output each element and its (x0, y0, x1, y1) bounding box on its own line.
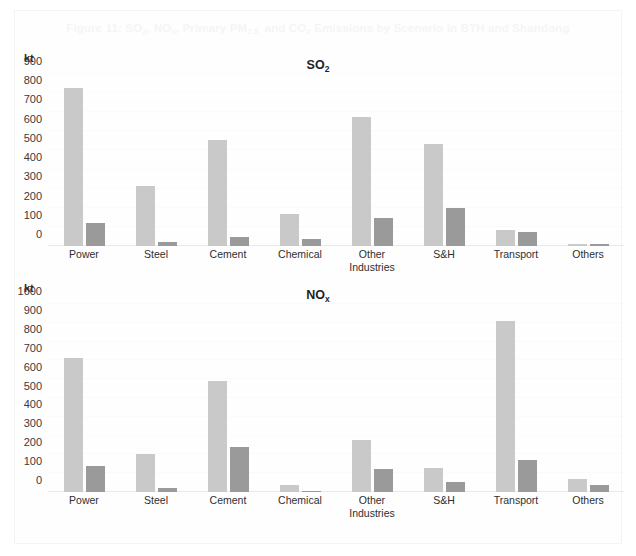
bar-groups-so2 (48, 74, 624, 246)
chart-title-so2: SO2 (0, 58, 636, 72)
bar-so2-s&h-s2[interactable] (446, 208, 465, 246)
y-tick-label: 900 (24, 55, 42, 67)
bar-so2-chemical-s2[interactable] (302, 239, 321, 246)
figure-page: Figure 11: SO2, NOx, Primary PM2.5, and … (0, 0, 636, 556)
y-tick-label: 800 (24, 323, 42, 335)
figure-caption-sub2: x (171, 27, 176, 36)
bar-so2-other-industries-s2[interactable] (374, 218, 393, 246)
chart-title-so2-sub: 2 (325, 64, 330, 74)
figure-caption-sub3: 2.5, (247, 27, 261, 36)
figure-caption-part2: , NO (147, 22, 171, 34)
bar-group[interactable] (264, 74, 336, 246)
bar-nox-others-s1[interactable] (568, 479, 587, 492)
bar-groups-nox (48, 304, 624, 492)
bar-nox-steel-s2[interactable] (158, 488, 177, 492)
bar-nox-transport-s1[interactable] (496, 321, 515, 492)
bar-so2-steel-s2[interactable] (158, 242, 177, 246)
x-axis-label: Others (552, 494, 624, 520)
bar-nox-s&h-s1[interactable] (424, 468, 443, 492)
bar-nox-power-s1[interactable] (64, 358, 83, 492)
bar-nox-cement-s2[interactable] (230, 447, 249, 492)
bar-group[interactable] (552, 74, 624, 246)
x-axis-label: Steel (120, 494, 192, 520)
bar-group[interactable] (408, 74, 480, 246)
bar-so2-cement-s2[interactable] (230, 237, 249, 246)
bar-nox-others-s2[interactable] (590, 485, 609, 492)
bar-group[interactable] (192, 304, 264, 492)
bar-so2-chemical-s1[interactable] (280, 214, 299, 246)
y-tick-label: 600 (24, 361, 42, 373)
bar-nox-transport-s2[interactable] (518, 460, 537, 492)
y-tick-label: 0 (36, 474, 42, 486)
bar-nox-power-s2[interactable] (86, 466, 105, 492)
bar-so2-transport-s1[interactable] (496, 230, 515, 246)
x-axis-label: Chemical (264, 494, 336, 520)
y-tick-label: 800 (24, 74, 42, 86)
chart-title-nox: NOx (0, 288, 636, 302)
bar-nox-cement-s1[interactable] (208, 381, 227, 492)
chart-nox: kt NOx 10009008007006005004003002001000 … (0, 282, 636, 550)
figure-caption-part5: Emissions by Scenario in BTH and Shandon… (311, 22, 570, 34)
bar-group[interactable] (336, 304, 408, 492)
y-tick-label: 400 (24, 151, 42, 163)
bar-nox-chemical-s2[interactable] (302, 491, 321, 493)
bar-nox-s&h-s2[interactable] (446, 482, 465, 492)
bar-group[interactable] (192, 74, 264, 246)
x-axis-labels-nox: PowerSteelCementChemicalOther Industries… (48, 494, 624, 520)
bar-so2-others-s1[interactable] (568, 244, 587, 246)
figure-caption-sub4: 2 (306, 27, 311, 36)
y-tick-label: 0 (36, 228, 42, 240)
figure-caption-part3: , Primary PM (176, 22, 247, 34)
y-tick-label: 200 (24, 190, 42, 202)
x-axis-label: Transport (480, 494, 552, 520)
x-axis-labels-so2: PowerSteelCementChemicalOther Industries… (48, 248, 624, 274)
bar-group[interactable] (336, 74, 408, 246)
bar-group[interactable] (264, 304, 336, 492)
bar-so2-transport-s2[interactable] (518, 232, 537, 246)
figure-caption: Figure 11: SO2, NOx, Primary PM2.5, and … (0, 22, 636, 34)
chart-title-nox-main: NO (306, 288, 325, 302)
y-tick-label: 900 (24, 304, 42, 316)
x-axis-label: Transport (480, 248, 552, 274)
x-axis-label: Power (48, 248, 120, 274)
y-tick-label: 100 (24, 209, 42, 221)
x-axis-label: Chemical (264, 248, 336, 274)
figure-caption-part4: and CO (261, 22, 306, 34)
y-tick-label: 700 (24, 342, 42, 354)
x-axis-label: S&H (408, 248, 480, 274)
bar-so2-cement-s1[interactable] (208, 140, 227, 246)
bar-group[interactable] (120, 304, 192, 492)
bar-nox-steel-s1[interactable] (136, 454, 155, 492)
y-tick-label: 500 (24, 380, 42, 392)
bar-nox-other-industries-s2[interactable] (374, 469, 393, 493)
bar-group[interactable] (48, 74, 120, 246)
bar-group[interactable] (120, 74, 192, 246)
x-axis-label: Other Industries (336, 248, 408, 274)
plot-area-nox: 10009008007006005004003002001000 (48, 304, 624, 492)
bar-nox-other-industries-s1[interactable] (352, 440, 371, 492)
bar-so2-power-s2[interactable] (86, 223, 105, 246)
chart-title-nox-sub: x (325, 294, 330, 304)
bar-group[interactable] (480, 74, 552, 246)
y-tick-label: 500 (24, 132, 42, 144)
y-tick-label: 300 (24, 170, 42, 182)
y-tick-label: 400 (24, 398, 42, 410)
bar-so2-other-industries-s1[interactable] (352, 117, 371, 246)
bar-so2-s&h-s1[interactable] (424, 144, 443, 246)
chart-title-so2-main: SO (307, 58, 325, 72)
x-axis-label: Other Industries (336, 494, 408, 520)
bar-group[interactable] (48, 304, 120, 492)
bar-so2-others-s2[interactable] (590, 244, 609, 246)
x-axis-label: Cement (192, 494, 264, 520)
y-tick-label: 700 (24, 93, 42, 105)
x-axis-label: Power (48, 494, 120, 520)
bar-so2-power-s1[interactable] (64, 88, 83, 246)
x-axis-label: Steel (120, 248, 192, 274)
bar-group[interactable] (480, 304, 552, 492)
bar-nox-chemical-s1[interactable] (280, 485, 299, 492)
bar-so2-steel-s1[interactable] (136, 186, 155, 246)
figure-caption-sub1: 2 (142, 27, 147, 36)
bar-group[interactable] (552, 304, 624, 492)
y-tick-label: 100 (24, 455, 42, 467)
bar-group[interactable] (408, 304, 480, 492)
